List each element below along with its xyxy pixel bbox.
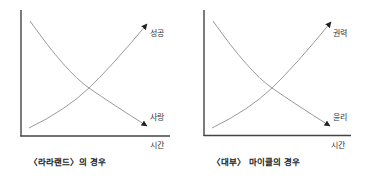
x-axis-label: 시간 [331, 142, 345, 150]
rising-curve-label: 성공 [150, 30, 164, 38]
chart-panel-lalaland: 성공 사랑 시간 〈라라랜드〉의 경우 [0, 0, 183, 182]
chart-panel-godfather: 권력 윤리 시간 〈대부〉 마이클의 경우 [183, 0, 366, 182]
falling-curve-label: 사랑 [150, 114, 164, 122]
chart-caption: 〈라라랜드〉의 경우 [29, 158, 106, 167]
falling-curve [30, 21, 147, 126]
chart-plot-godfather [183, 0, 367, 182]
chart-caption: 〈대부〉 마이클의 경우 [212, 158, 300, 167]
falling-curve [213, 21, 330, 126]
chart-plot-lalaland [0, 0, 183, 182]
rising-curve-label: 권력 [333, 30, 347, 38]
rising-curve [29, 24, 147, 128]
rising-curve [212, 22, 331, 128]
x-axis-label: 시간 [150, 142, 164, 150]
falling-curve-label: 윤리 [333, 114, 347, 122]
